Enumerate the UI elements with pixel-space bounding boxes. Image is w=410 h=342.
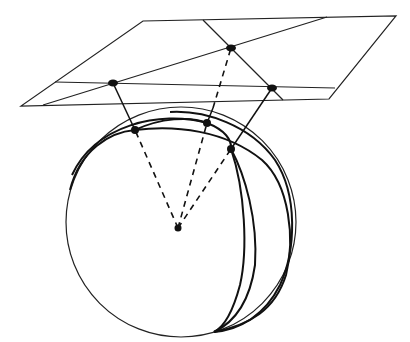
great-circle-4 (214, 149, 244, 332)
projection-ray-dashed-2b (213, 48, 231, 108)
tangent-plane (21, 16, 396, 106)
plane-point-2 (226, 45, 236, 52)
sphere-point-3 (227, 145, 235, 153)
sphere-center-point (175, 225, 182, 232)
projection-ray-dashed-3 (178, 149, 231, 228)
sphere-point-1 (131, 126, 139, 134)
plane-point-1 (108, 80, 118, 87)
sphere-point-2 (203, 119, 211, 127)
gnomonic-projection-diagram (0, 0, 410, 342)
projection-ray-solid-3 (231, 88, 272, 149)
projection-ray-solid-1 (113, 83, 135, 130)
great-circle-3 (135, 112, 292, 332)
plane-line-horizontal (55, 82, 335, 88)
projection-ray-dashed-2 (178, 123, 207, 228)
plane-point-3 (267, 85, 277, 92)
projection-ray-dashed-1 (135, 130, 178, 228)
